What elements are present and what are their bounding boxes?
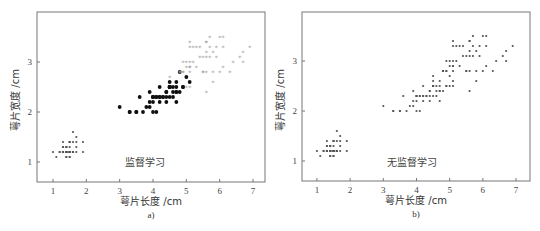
data-point xyxy=(442,70,444,72)
data-point xyxy=(439,80,441,82)
data-point xyxy=(459,45,461,47)
data-point xyxy=(332,155,334,157)
data-point xyxy=(485,65,487,67)
x-axis-label: 萼片长度 /cm xyxy=(385,194,447,206)
data-point xyxy=(405,110,407,112)
data-point xyxy=(455,45,457,47)
data-point xyxy=(435,90,437,92)
data-point xyxy=(415,100,417,102)
data-point xyxy=(329,155,331,157)
data-point xyxy=(432,95,434,97)
data-point xyxy=(319,155,321,157)
x-tick-label: 5 xyxy=(447,185,452,195)
data-point xyxy=(409,105,411,107)
data-point xyxy=(449,75,451,77)
data-point xyxy=(419,95,421,97)
x-tick-label: 7 xyxy=(514,185,519,195)
data-point xyxy=(399,110,401,112)
data-point xyxy=(449,60,451,62)
data-point xyxy=(422,100,424,102)
data-point xyxy=(339,135,341,137)
data-point xyxy=(468,90,470,92)
data-point xyxy=(465,70,467,72)
data-point xyxy=(425,95,427,97)
data-point xyxy=(329,150,331,152)
data-point xyxy=(445,85,447,87)
data-point xyxy=(329,145,331,147)
data-point xyxy=(472,45,474,47)
data-point xyxy=(482,35,484,37)
data-point xyxy=(316,150,318,152)
data-point xyxy=(462,55,464,57)
axis-ticks: 1234567123 xyxy=(293,56,519,195)
data-point xyxy=(422,95,424,97)
data-point xyxy=(468,55,470,57)
data-point xyxy=(452,70,454,72)
data-point xyxy=(429,95,431,97)
data-point xyxy=(512,45,514,47)
data-point xyxy=(452,80,454,82)
data-point xyxy=(475,70,477,72)
data-point xyxy=(332,140,334,142)
scatter-plot-b: 1234567123 无监督学习 萼片长度 /cm b) 萼片宽度 /cm xyxy=(0,0,540,231)
data-point xyxy=(339,140,341,142)
data-point xyxy=(432,75,434,77)
data-points xyxy=(316,35,514,157)
data-point xyxy=(429,100,431,102)
data-point xyxy=(439,100,441,102)
panel-b-unsupervised: 1234567123 无监督学习 萼片长度 /cm b) 萼片宽度 /cm xyxy=(0,0,270,231)
data-point xyxy=(346,150,348,152)
data-point xyxy=(459,65,461,67)
data-point xyxy=(462,45,464,47)
data-point xyxy=(478,55,480,57)
data-point xyxy=(445,70,447,72)
data-point xyxy=(415,95,417,97)
data-point xyxy=(452,65,454,67)
data-point xyxy=(432,80,434,82)
data-point xyxy=(445,60,447,62)
x-tick-label: 2 xyxy=(348,185,353,195)
data-point xyxy=(339,150,341,152)
data-point xyxy=(415,110,417,112)
data-point xyxy=(505,50,507,52)
data-point xyxy=(346,140,348,142)
x-tick-label: 4 xyxy=(414,185,419,195)
x-tick-label: 1 xyxy=(315,185,320,195)
data-point xyxy=(412,105,414,107)
data-point xyxy=(492,70,494,72)
data-point xyxy=(482,70,484,72)
data-point xyxy=(322,150,324,152)
data-point xyxy=(505,60,507,62)
data-point xyxy=(332,150,334,152)
data-point xyxy=(452,85,454,87)
data-point xyxy=(465,55,467,57)
y-axis-label: 萼片宽度 /cm xyxy=(274,69,286,131)
data-point xyxy=(502,55,504,57)
data-point xyxy=(468,70,470,72)
data-point xyxy=(432,85,434,87)
data-point xyxy=(449,65,451,67)
x-tick-label: 6 xyxy=(481,185,486,195)
y-tick-label: 2 xyxy=(293,106,298,116)
data-point xyxy=(495,60,497,62)
data-point xyxy=(475,50,477,52)
data-point xyxy=(472,35,474,37)
data-point xyxy=(478,45,480,47)
data-point xyxy=(468,50,470,52)
data-point xyxy=(452,40,454,42)
data-point xyxy=(439,85,441,87)
y-tick-label: 1 xyxy=(293,156,298,166)
data-point xyxy=(429,90,431,92)
data-point xyxy=(452,45,454,47)
data-point xyxy=(485,35,487,37)
data-point xyxy=(475,80,477,82)
data-point xyxy=(472,55,474,57)
data-point xyxy=(412,90,414,92)
data-point xyxy=(422,85,424,87)
data-point xyxy=(382,105,384,107)
x-tick-label: 3 xyxy=(381,185,386,195)
data-point xyxy=(449,85,451,87)
data-point xyxy=(392,110,394,112)
data-point xyxy=(468,40,470,42)
data-point xyxy=(419,110,421,112)
